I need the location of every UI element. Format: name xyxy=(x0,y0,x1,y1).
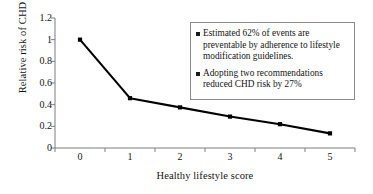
legend-item: Estimated 62% of events are preventable … xyxy=(196,28,350,63)
legend-box: Estimated 62% of events are preventable … xyxy=(190,22,355,100)
y-axis-tick-label: 1 xyxy=(26,35,52,45)
y-axis-tick-label: 0.2 xyxy=(26,121,52,131)
legend-item-label: Estimated 62% of events are preventable … xyxy=(203,28,350,63)
y-axis-tick-label: 0.8 xyxy=(26,56,52,66)
y-axis-tick-label: 1.2 xyxy=(26,13,52,23)
x-axis-tick-label: 3 xyxy=(218,151,242,162)
x-axis-tick-label: 0 xyxy=(68,151,92,162)
legend-square-icon xyxy=(196,72,200,76)
y-axis-tick-label: 0.4 xyxy=(26,100,52,110)
legend-item: Adopting two recommendations reduced CHD… xyxy=(196,68,350,91)
x-axis-tick-label: 5 xyxy=(318,151,342,162)
x-axis-tick-label: 4 xyxy=(268,151,292,162)
y-axis-tick-label: 0.6 xyxy=(26,78,52,88)
legend-square-icon xyxy=(196,32,200,36)
chart-figure: Relative risk of CHD 00.20.40.60.811.2 0… xyxy=(0,0,373,194)
x-axis-title: Healthy lifestyle score xyxy=(55,170,355,181)
legend-item-label: Adopting two recommendations reduced CHD… xyxy=(203,68,350,91)
x-axis-tick-label: 1 xyxy=(118,151,142,162)
x-axis-tick-labels: 012345 xyxy=(0,151,373,163)
x-axis-tick-label: 2 xyxy=(168,151,192,162)
